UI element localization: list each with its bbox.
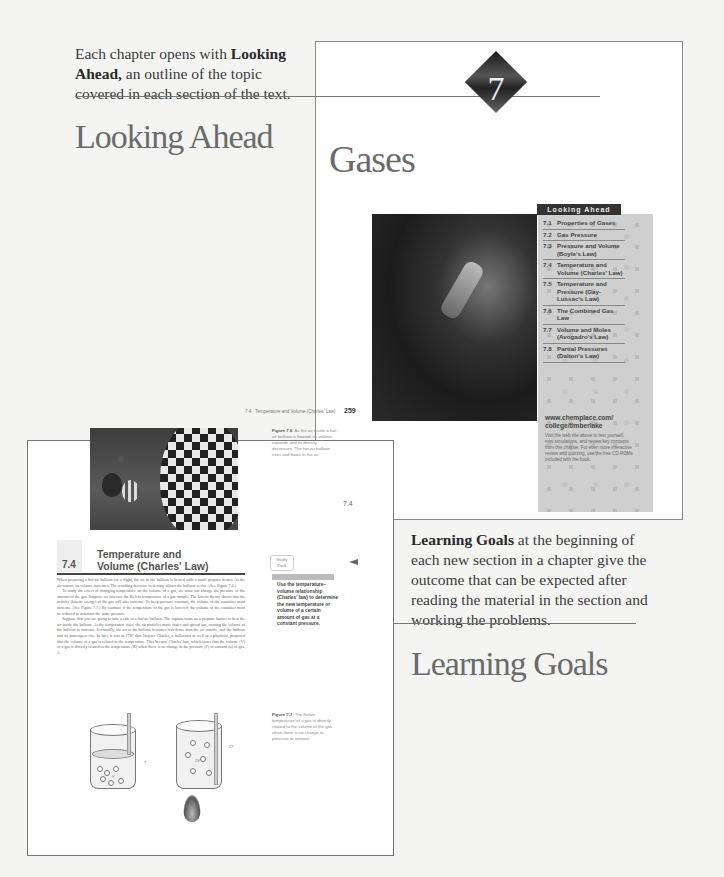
figure-7-7-caption: Figure 7.7 The Kelvin temperature of a g… [272, 712, 338, 742]
balloon-checkered [160, 428, 238, 530]
callout-prefix: Each chapter opens with [75, 45, 231, 62]
figure-7-6-caption: Figure 7.6 As the air inside a hot-air b… [272, 428, 338, 458]
section-title: Volume and Moles (Avogadro's Law) [557, 326, 625, 341]
label-double-temperature: 2T [229, 744, 234, 749]
label-temperature: T [144, 760, 146, 765]
thermometer [127, 713, 131, 755]
page-number: 259 [344, 407, 356, 414]
flame-icon [183, 794, 201, 822]
callout-bold-term: Learning Goals [411, 531, 514, 548]
gas-molecule [190, 740, 196, 746]
section-list-item: 7.8Partial Pressures (Dalton's Law) [543, 344, 625, 363]
section-list-item: 7.3Pressure and Volume (Boyle's Law) [543, 241, 625, 260]
section-title: Temperature and Volume (Charles' Law) [97, 548, 217, 572]
looking-ahead-callout: Each chapter opens with Looking Ahead, a… [75, 44, 305, 104]
gas-molecule [100, 776, 106, 782]
section-tab-marker: 7.4 [343, 500, 353, 507]
balloon-small [118, 456, 124, 463]
section-num: 7.4 [543, 261, 557, 276]
learning-goals-heading: Learning Goals [411, 645, 608, 683]
gas-molecule [113, 766, 119, 772]
learning-goals-callout: Learning Goals at the beginning of each … [411, 530, 666, 630]
section-title: Pressure and Volume (Boyle's Law) [557, 242, 625, 257]
label-double-volume: 2V [195, 758, 200, 763]
section-num: 7.7 [543, 326, 557, 341]
connector-line-overlay [315, 96, 600, 97]
gas-molecule [97, 766, 103, 772]
hot-air-balloons-photo [90, 428, 238, 530]
section-num: 7.1 [543, 219, 557, 227]
section-list-item: 7.1Properties of Gases [543, 218, 625, 230]
section-list-item: 7.7Volume and Moles (Avogadro's Law) [543, 325, 625, 344]
body-paragraph: Suppose that you are going to take a rid… [57, 616, 245, 655]
gas-molecule [190, 768, 196, 774]
website-description: Visit the web site above to test yoursel… [545, 433, 633, 463]
looking-ahead-panel-header: Looking Ahead [537, 204, 621, 215]
running-head: 7.4 · Temperature and Volume (Charles' L… [245, 409, 336, 414]
gas-molecule [185, 752, 191, 758]
chapter-number: 7 [465, 58, 527, 120]
section-list-item: 7.6The Combined Gas Law [543, 306, 625, 325]
connector-line-learning-goals [352, 623, 636, 624]
section-title: Properties of Gases [557, 219, 615, 227]
study-pack-icon: Study Pack [270, 555, 294, 571]
website-link[interactable]: www.chemplace.com/ college/timberlake [545, 414, 633, 430]
gas-molecule [200, 756, 206, 762]
section-list-item: 7.5Temperature and Pressure (Gay-Lussac'… [543, 279, 625, 306]
figure-label: Figure 7.6 [272, 428, 292, 433]
section-num: 7.8 [543, 345, 557, 360]
section-num: 7.6 [543, 307, 557, 322]
section-title: The Combined Gas Law [557, 307, 625, 322]
gas-molecule [204, 742, 210, 748]
figure-label: Figure 7.7 [272, 712, 292, 717]
section-num: 7.5 [543, 280, 557, 303]
learning-goal-text: Use the temperature–volume relationship … [277, 582, 339, 628]
gas-molecule [104, 770, 110, 776]
arrow-left-icon [349, 559, 358, 565]
section-rule [57, 573, 245, 575]
section-number: 7.4 [62, 559, 76, 570]
section-num: 7.2 [543, 231, 557, 239]
gas-molecule [118, 778, 124, 784]
section-num: 7.3 [543, 242, 557, 257]
balloon-small [122, 480, 139, 502]
section-list-item: 7.2Gas Pressure [543, 230, 625, 242]
chapter-title: Gases [329, 137, 415, 181]
looking-ahead-section-list: 7.1Properties of Gases 7.2Gas Pressure 7… [543, 218, 625, 363]
section-title: Temperature and Pressure (Gay-Lussac's L… [557, 280, 625, 303]
section-list-item: 7.4Temperature and Volume (Charles' Law) [543, 260, 625, 279]
body-paragraph: When preparing a hot-air balloon for a f… [57, 577, 245, 588]
looking-ahead-heading: Looking Ahead [75, 118, 273, 156]
gas-molecule [108, 780, 114, 786]
learning-goal-bar [272, 574, 334, 580]
section-body-text: When preparing a hot-air balloon for a f… [57, 577, 245, 655]
body-paragraph: To study the effect of changing temperat… [57, 588, 245, 616]
section-title: Gas Pressure [557, 231, 597, 239]
thermometer [214, 713, 218, 785]
gas-molecule [206, 770, 212, 776]
label-volume: V [112, 774, 115, 779]
section-title: Temperature and Volume (Charles' Law) [557, 261, 625, 276]
section-title: Partial Pressures (Dalton's Law) [557, 345, 625, 360]
balloon-small [102, 473, 122, 497]
